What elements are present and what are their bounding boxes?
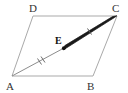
- label-d: D: [29, 2, 37, 14]
- segment-ae: [12, 48, 64, 76]
- label-b: B: [87, 80, 94, 92]
- edge-bc: [93, 16, 117, 76]
- label-a: A: [6, 80, 14, 92]
- label-c: C: [112, 2, 119, 14]
- segment-ae-line: [12, 48, 64, 76]
- vector-ec: [62, 16, 117, 50]
- label-e: E: [55, 35, 62, 46]
- point-e-dot: [62, 46, 66, 50]
- geometry-figure: A B C D E: [0, 0, 128, 93]
- edge-da: [12, 16, 33, 76]
- parallelogram-diagram: A B C D E: [0, 0, 128, 93]
